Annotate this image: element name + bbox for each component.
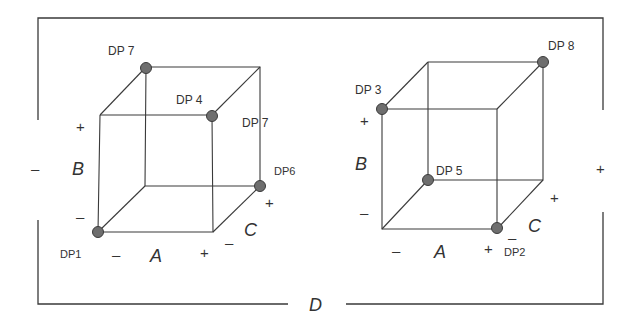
label-dp8: DP 8 xyxy=(548,39,575,53)
label-dp5: DP 5 xyxy=(436,164,463,178)
data-point-dp2 xyxy=(492,223,503,234)
sign-a-minus: – xyxy=(392,242,401,259)
sign-a-plus: + xyxy=(484,240,493,257)
data-point-dp5 xyxy=(423,175,434,186)
axis-label-d: D xyxy=(309,295,322,315)
sign-b-plus: + xyxy=(360,112,369,129)
data-point-dp4 xyxy=(207,111,218,122)
label-dp3: DP 3 xyxy=(355,83,382,97)
data-point-dp8 xyxy=(538,57,549,68)
left-cube: DP 7 DP 4 DP 7 DP6 DP1 B A C + – – + – + xyxy=(60,44,295,266)
label-dp4: DP 4 xyxy=(176,93,203,107)
data-point-dp3 xyxy=(377,104,388,115)
design-cube-diagram: DP 7 DP 4 DP 7 DP6 DP1 B A C + – – + – +… xyxy=(0,0,633,326)
sign-d-minus: – xyxy=(31,160,40,177)
sign-a-plus: + xyxy=(200,244,209,261)
axis-label-c: C xyxy=(528,216,542,236)
label-dp6: DP6 xyxy=(274,165,295,177)
data-point-dp7 xyxy=(141,63,152,74)
sign-b-minus: – xyxy=(76,208,85,225)
axis-label-a: A xyxy=(433,242,446,262)
sign-c-plus: + xyxy=(265,194,274,211)
label-dp7: DP 7 xyxy=(108,44,135,58)
sign-c-minus: – xyxy=(508,229,517,246)
right-cube: DP 3 DP 8 DP 5 DP2 B A C + – – + – + xyxy=(355,39,575,262)
axis-label-b: B xyxy=(355,154,367,174)
data-point-dp6 xyxy=(255,181,266,192)
sign-a-minus: – xyxy=(112,246,121,263)
sign-c-minus: – xyxy=(225,234,234,251)
axis-label-c: C xyxy=(244,220,258,240)
label-dp7-extra: DP 7 xyxy=(242,116,269,130)
axis-label-b: B xyxy=(72,159,84,179)
sign-b-minus: – xyxy=(360,204,369,221)
axis-label-a: A xyxy=(149,246,162,266)
label-dp1: DP1 xyxy=(60,248,81,260)
sign-d-plus: + xyxy=(596,160,605,177)
factor-d-frame xyxy=(38,18,603,304)
data-point-dp1 xyxy=(93,227,104,238)
sign-c-plus: + xyxy=(550,189,559,206)
label-dp2: DP2 xyxy=(504,246,525,258)
sign-b-plus: + xyxy=(76,118,85,135)
